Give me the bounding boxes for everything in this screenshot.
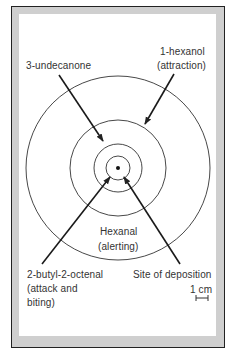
label-undecanone: 3-undecanone	[26, 59, 91, 73]
arrow-undecanone	[59, 75, 103, 141]
label-hexanol-effect: (attraction)	[157, 59, 206, 73]
label-hexanal: Hexanal	[100, 225, 137, 239]
label-hexanol: 1-hexanol	[160, 45, 205, 59]
label-site-of-deposition: Site of deposition	[133, 268, 212, 282]
label-scale: 1 cm	[190, 283, 212, 297]
label-butyloctenal: 2-butyl-2-octenal	[27, 268, 103, 282]
deposition-site-dot	[116, 166, 120, 170]
label-hexanal-effect: (alerting)	[98, 240, 138, 254]
label-butyloctenal-effect-1: (attack and	[27, 282, 78, 296]
label-butyloctenal-effect-2: biting)	[27, 296, 55, 310]
